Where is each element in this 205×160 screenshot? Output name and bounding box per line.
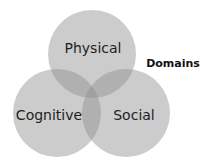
- label-social: Social: [113, 107, 155, 123]
- venn-diagram: Physical Cognitive Social Domains: [0, 0, 205, 160]
- diagram-title: Domains: [146, 57, 200, 70]
- label-cognitive: Cognitive: [16, 107, 82, 123]
- label-physical: Physical: [65, 40, 122, 56]
